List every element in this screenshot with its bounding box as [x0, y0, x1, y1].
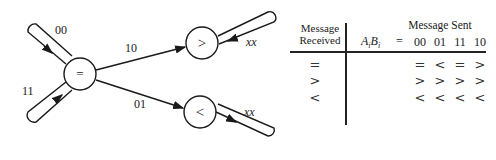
ab-label: AiBi: [361, 34, 380, 50]
ab-b: B: [371, 34, 378, 48]
column-header: 10: [471, 35, 489, 50]
node-greater-label: >: [198, 35, 206, 51]
table-cell: =: [451, 57, 469, 72]
column-header: 11: [451, 35, 469, 50]
ab-equals: =: [396, 34, 403, 49]
edge-label-01: 01: [134, 97, 146, 111]
self-loop-11: [27, 82, 72, 122]
table-cell: <: [431, 57, 449, 72]
table-cell: <: [411, 90, 429, 105]
state-diagram: = > < 00 11 10 01 xx xx: [0, 0, 290, 160]
column-header: 00: [411, 35, 429, 50]
edge-label-00: 00: [55, 23, 67, 37]
table-vertical-divider: [345, 23, 347, 125]
table-cell: >: [431, 73, 449, 88]
table-cell: <: [431, 90, 449, 105]
edge-label-xx-top: xx: [245, 35, 257, 49]
header-received-line2: Received: [296, 34, 344, 46]
table-horizontal-divider: [290, 51, 486, 53]
header-message-received: Message Received: [296, 22, 344, 46]
row-label: >: [305, 73, 325, 88]
table-cell: <: [471, 90, 489, 105]
node-less-label: <: [196, 104, 204, 120]
ab-i2: i: [378, 41, 380, 50]
table-cell: >: [411, 73, 429, 88]
edge-label-11: 11: [22, 84, 34, 98]
edge-label-10: 10: [125, 41, 137, 55]
column-header: 01: [431, 35, 449, 50]
node-equal-label: =: [76, 66, 83, 81]
header-message-sent: Message Sent: [390, 19, 490, 31]
table-cell: =: [411, 57, 429, 72]
edge-10: [96, 47, 185, 70]
edge-label-xx-bottom: xx: [243, 105, 255, 119]
row-label: =: [305, 57, 325, 72]
table-cell: >: [471, 57, 489, 72]
row-label: <: [305, 90, 325, 105]
header-received-line1: Message: [296, 22, 344, 34]
table-cell: >: [471, 73, 489, 88]
table-cell: >: [451, 73, 469, 88]
table-cell: <: [451, 90, 469, 105]
